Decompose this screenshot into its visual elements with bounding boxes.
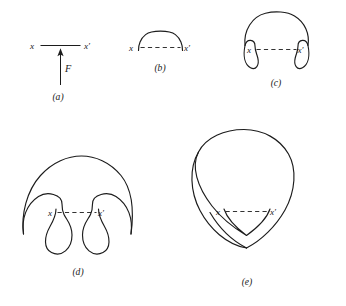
- figure-container: x x′ F (a) x x′ (b) x x′ (c): [0, 0, 346, 306]
- panel-a: x x′ F (a): [29, 41, 91, 104]
- panel-a-left-endpoint-label: x: [29, 41, 35, 51]
- panel-d-right-endpoint-label: x′: [97, 208, 105, 218]
- panel-c-left-endpoint-label: x: [246, 45, 252, 55]
- panel-d: x x′ (d): [23, 156, 132, 278]
- figure-canvas: x x′ F (a) x x′ (b) x x′ (c): [0, 0, 346, 306]
- panel-b: x x′ (b): [128, 31, 191, 74]
- panel-a-caption: (a): [52, 91, 63, 103]
- panel-d-left-endpoint-label: x: [47, 208, 53, 218]
- panel-c-right-endpoint-label: x′: [297, 45, 305, 55]
- panel-c: x x′ (c): [244, 12, 309, 89]
- panel-b-left-endpoint-label: x: [128, 43, 134, 53]
- panel-d-caption: (d): [72, 266, 83, 278]
- panel-d-left-lobe: [23, 194, 72, 254]
- panel-c-caption: (c): [271, 77, 282, 89]
- panel-e-caption: (e): [242, 276, 253, 288]
- panel-a-right-endpoint-label: x′: [83, 41, 91, 51]
- panel-b-loop: [138, 31, 182, 50]
- panel-d-right-lobe: [83, 194, 132, 254]
- force-label: F: [64, 63, 72, 74]
- panel-d-dome: [23, 156, 132, 234]
- panel-e-notch-right: [247, 209, 271, 236]
- panel-e-left-branch: [195, 130, 294, 249]
- panel-e-outer-left: [192, 152, 247, 248]
- panel-c-dome: [245, 12, 309, 46]
- panel-b-right-endpoint-label: x′: [183, 43, 191, 53]
- panel-b-caption: (b): [154, 62, 165, 74]
- panel-e-right-endpoint-label: x′: [269, 207, 277, 217]
- panel-e: x x′ (e): [192, 130, 294, 289]
